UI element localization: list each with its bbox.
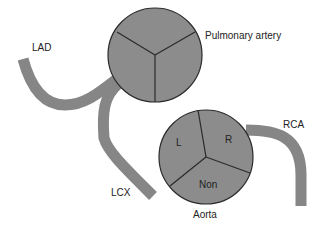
cusp-non-label: Non xyxy=(199,179,217,190)
aorta-label: Aorta xyxy=(193,209,217,220)
diagram-canvas: LAD LCX RCA Pulmonary artery Aorta L R N… xyxy=(0,0,322,233)
pulmonary-artery-label: Pulmonary artery xyxy=(205,30,281,41)
cusp-left-label: L xyxy=(176,137,182,148)
lad-label: LAD xyxy=(32,42,51,53)
rca-vessel xyxy=(246,130,301,206)
pulmonary-valve xyxy=(108,8,202,102)
cusp-right-label: R xyxy=(225,134,232,145)
lcx-label: LCX xyxy=(111,187,131,198)
rca-label: RCA xyxy=(283,119,304,130)
